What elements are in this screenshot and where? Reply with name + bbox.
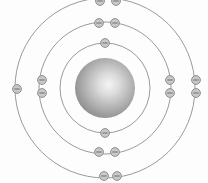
electron-3-2	[112, 0, 121, 5]
bohr-atomic-model-diagram	[0, 0, 208, 183]
electron-1-1	[101, 39, 110, 48]
electron-3-3	[100, 172, 109, 181]
electron-2-5	[38, 76, 47, 85]
electron-2-6	[38, 89, 47, 98]
electron-3-1	[96, 0, 105, 5]
atom-nucleus	[75, 58, 135, 118]
electron-2-3	[95, 148, 104, 157]
electron-1-2	[101, 129, 110, 138]
electron-3-4	[113, 172, 122, 181]
atom-svg-canvas	[0, 0, 208, 183]
electron-3-7	[192, 89, 201, 98]
electron-2-1	[95, 19, 104, 28]
electron-2-4	[111, 148, 120, 157]
electron-3-6	[192, 76, 201, 85]
electron-2-8	[166, 89, 175, 98]
nucleus-sphere	[75, 58, 135, 118]
electron-3-5	[13, 85, 22, 94]
electron-2-7	[166, 76, 175, 85]
electron-2-2	[111, 19, 120, 28]
